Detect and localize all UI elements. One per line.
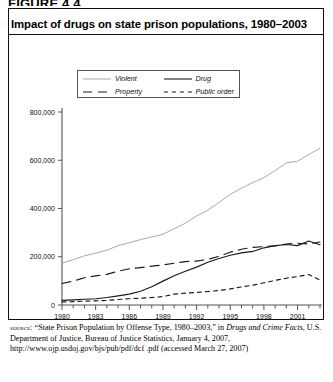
legend-line-drug-icon (163, 74, 193, 84)
source-note: source: “State Prison Population by Offe… (10, 323, 326, 355)
series-line-property (62, 242, 320, 283)
legend-item-property: Property (78, 85, 159, 98)
x-axis-tick-label: 1980 (54, 313, 70, 320)
x-axis-tick-label: 1986 (122, 313, 138, 320)
chart-legend: Violent Drug Property Public order (77, 70, 240, 98)
figure-label: FIGURE 4.4 (8, 0, 81, 6)
legend-row: Violent Drug (78, 72, 239, 85)
y-axis-tick-label: 200,000 (30, 253, 55, 260)
chart-plot-area: 0200,000400,000600,000800,00019801983198… (8, 100, 324, 322)
x-axis-tick-label: 1983 (88, 313, 104, 320)
x-axis-tick-label: 1998 (256, 313, 272, 320)
y-axis-tick-label: 800,000 (30, 109, 55, 116)
legend-label-property: Property (115, 87, 142, 96)
x-axis-tick-label: 1992 (189, 313, 205, 320)
legend-line-violent-icon (82, 74, 112, 84)
title-divider (9, 34, 323, 35)
legend-item-violent: Violent (78, 72, 159, 85)
x-axis-tick-label: 1995 (222, 313, 238, 320)
source-label: source: (10, 323, 33, 332)
y-axis-tick-label: 0 (51, 302, 55, 309)
legend-label-drug: Drug (196, 74, 212, 83)
figure-container: FIGURE 4.4 Impact of drugs on state pris… (0, 0, 333, 382)
x-axis-tick-label: 2001 (290, 313, 306, 320)
x-axis-tick-label: 1989 (155, 313, 171, 320)
legend-label-violent: Violent (115, 74, 137, 83)
line-chart: 0200,000400,000600,000800,00019801983198… (8, 100, 324, 322)
chart-title: Impact of drugs on state prison populati… (11, 18, 311, 30)
source-italic-title: Drugs and Crime Facts (226, 323, 303, 332)
y-axis-tick-label: 400,000 (30, 205, 55, 212)
legend-line-public-order-icon (163, 87, 193, 97)
y-axis-tick-label: 600,000 (30, 157, 55, 164)
legend-row: Property Public order (78, 85, 239, 98)
legend-item-public-order: Public order (159, 85, 240, 98)
legend-label-public-order: Public order (196, 87, 234, 96)
legend-item-drug: Drug (159, 72, 240, 85)
series-line-drug (62, 241, 320, 300)
source-line1: “State Prison Population by Offense Type… (33, 323, 227, 332)
series-line-violent (62, 148, 320, 263)
legend-line-property-icon (82, 87, 112, 97)
